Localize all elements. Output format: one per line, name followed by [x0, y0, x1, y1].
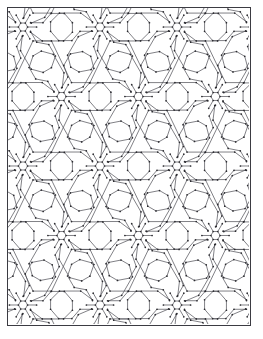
pattern-layer	[8, 8, 249, 324]
tessellation-pattern	[8, 8, 249, 324]
page-border	[7, 7, 251, 326]
page-root	[0, 0, 263, 339]
